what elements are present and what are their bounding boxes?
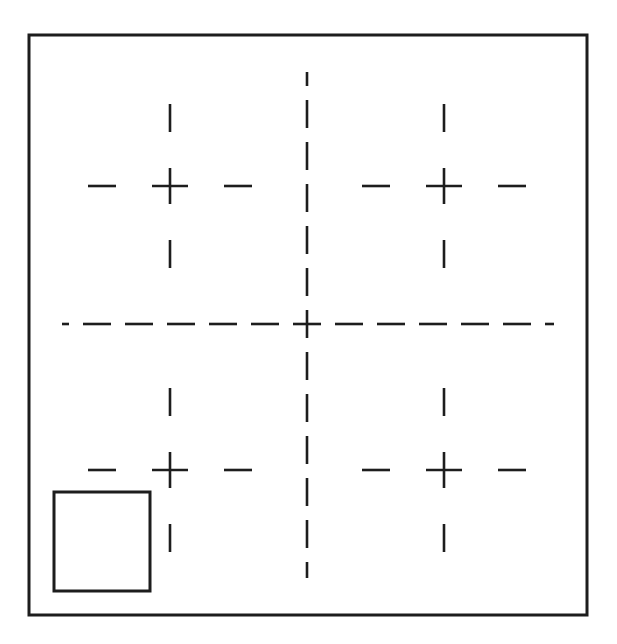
figure-root [0, 0, 617, 644]
figure-diagram [0, 0, 617, 644]
figure-background [0, 0, 617, 644]
